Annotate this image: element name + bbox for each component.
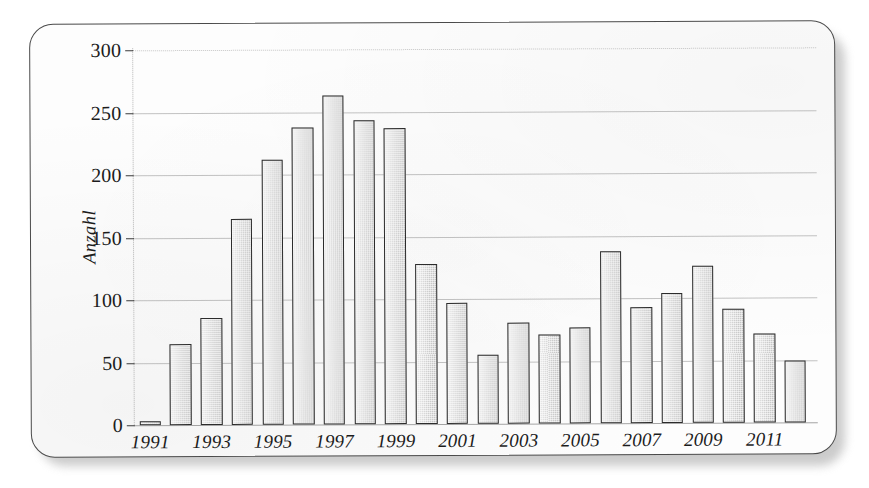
x-axis-tick-label: 1997 [315,430,354,452]
y-axis-tick-label: 250 [91,101,122,124]
bar-2009 [692,265,714,423]
y-axis-tick-label: 50 [102,351,123,374]
bar-1994 [231,219,253,425]
bar-2007 [631,307,653,423]
x-axis-tick-label: 2003 [500,430,539,452]
bar-2005 [569,327,591,423]
x-axis-tick-label: 1995 [254,431,293,453]
bar-1997 [322,96,345,425]
x-axis-tick-label: 2009 [684,429,723,451]
x-axis-tick-label: 2011 [746,428,783,450]
bar-2008 [661,293,683,423]
bar-2000 [415,264,437,424]
bar-1995 [261,160,284,425]
bar-1992 [170,344,192,425]
bar-2011 [754,334,776,423]
bars-group [132,47,810,425]
x-axis-labels-group: 1991199319951997199920012003200520072009… [134,422,810,457]
x-axis-tick-label: 2005 [561,429,600,451]
bar-2012 [784,360,806,423]
bar-2006 [600,251,622,424]
bar-1999 [384,128,407,424]
x-axis-tick-label: 1993 [192,431,231,453]
bar-2010 [723,309,745,423]
bar-1996 [292,127,315,425]
y-axis-tick-label: 300 [91,39,122,62]
bar-2001 [446,303,468,424]
y-axis-tick-label: 200 [91,164,122,187]
x-axis-tick-label: 2007 [622,429,661,451]
chart-card: 050100150200250300 Anzahl 19911993199519… [29,20,837,458]
plot-area: 050100150200250300 Anzahl 19911993199519… [132,47,810,425]
y-axis-title: Anzahl [79,210,100,264]
bar-1993 [200,317,222,425]
y-axis-tick-label: 0 [113,414,123,437]
x-axis-tick-label: 1991 [131,431,170,453]
chart-page: 050100150200250300 Anzahl 19911993199519… [0,0,869,488]
bar-2004 [538,335,560,424]
x-axis-tick-label: 2001 [438,430,477,452]
bar-2002 [477,355,499,424]
x-axis-tick-label: 1999 [377,430,416,452]
bar-2003 [508,322,530,423]
y-axis-tick-label: 100 [92,289,123,312]
bar-1998 [353,121,376,425]
